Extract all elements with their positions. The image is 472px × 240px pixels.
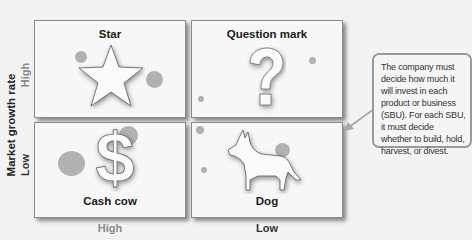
dog-icon bbox=[222, 128, 306, 194]
quadrant-cash-cow: $ Cash cow bbox=[34, 122, 186, 218]
bubble bbox=[146, 71, 163, 88]
star-icon bbox=[77, 43, 145, 109]
bubble bbox=[196, 126, 204, 134]
question-mark-icon bbox=[246, 47, 286, 115]
bubble bbox=[198, 96, 204, 102]
quadrant-star: Star bbox=[34, 20, 186, 118]
quadrant-question-mark: Question mark bbox=[191, 20, 343, 118]
x-axis-high-label: High bbox=[34, 222, 186, 234]
quadrant-star-label: Star bbox=[35, 28, 185, 40]
bubble bbox=[309, 57, 316, 64]
svg-text:$: $ bbox=[96, 124, 135, 192]
quadrant-dog: Dog bbox=[191, 122, 343, 218]
y-axis-title-text: Market growth rate bbox=[5, 74, 17, 177]
dollar-sign-icon: $ bbox=[90, 124, 140, 192]
y-axis-high-label: High bbox=[17, 45, 33, 105]
callout-text: The company must decide how much it will… bbox=[381, 62, 466, 156]
bubble bbox=[58, 151, 85, 176]
x-axis-low-label: Low bbox=[191, 222, 343, 234]
quadrant-cash-cow-label: Cash cow bbox=[35, 195, 185, 207]
y-low-text: Low bbox=[19, 154, 31, 176]
y-axis-low-label: Low bbox=[17, 135, 33, 195]
quadrant-question-mark-label: Question mark bbox=[192, 28, 342, 40]
callout-box: The company must decide how much it will… bbox=[372, 53, 472, 148]
bubble bbox=[201, 167, 207, 173]
quadrant-dog-label: Dog bbox=[192, 195, 342, 207]
y-high-text: High bbox=[19, 63, 31, 87]
